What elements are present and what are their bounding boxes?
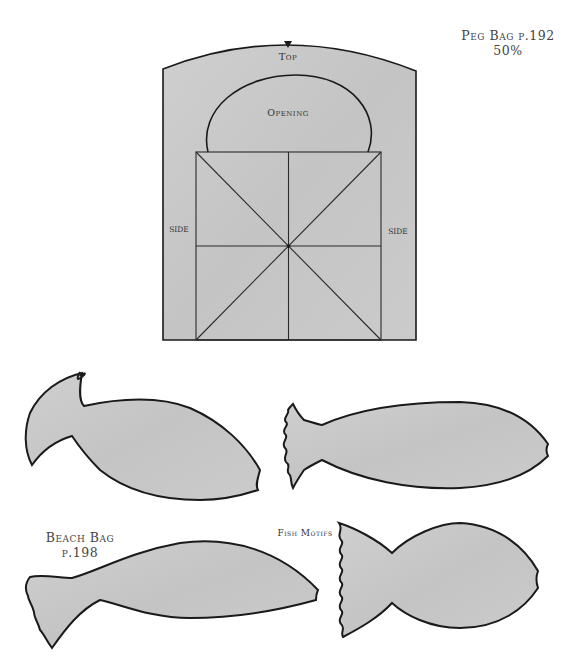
peg-bag-scale: 50% bbox=[438, 43, 575, 58]
sewing-templates-illustration bbox=[0, 0, 575, 664]
fish-template-4 bbox=[339, 523, 538, 637]
peg-bag-title: Peg Bag p.192 50% bbox=[438, 28, 575, 58]
side-right-label: SIDE bbox=[382, 227, 414, 236]
fish-template-2 bbox=[284, 402, 548, 488]
peg-bag-template bbox=[163, 41, 416, 340]
beach-bag-title-line1: Beach Bag bbox=[40, 530, 120, 545]
beach-bag-title: Beach Bag p.198 bbox=[40, 530, 120, 560]
peg-bag-title-line1: Peg Bag p.192 bbox=[438, 28, 575, 43]
beach-bag-page: p.198 bbox=[40, 545, 120, 560]
fish-template-1 bbox=[26, 372, 260, 500]
peg-bag-outline bbox=[163, 45, 416, 340]
center-point-marker bbox=[287, 244, 291, 248]
opening-label: Opening bbox=[250, 107, 326, 118]
top-label: Top bbox=[270, 51, 306, 62]
side-left-label: SIDE bbox=[163, 225, 195, 234]
fish-motifs-label: Fish Motifs bbox=[270, 528, 340, 538]
